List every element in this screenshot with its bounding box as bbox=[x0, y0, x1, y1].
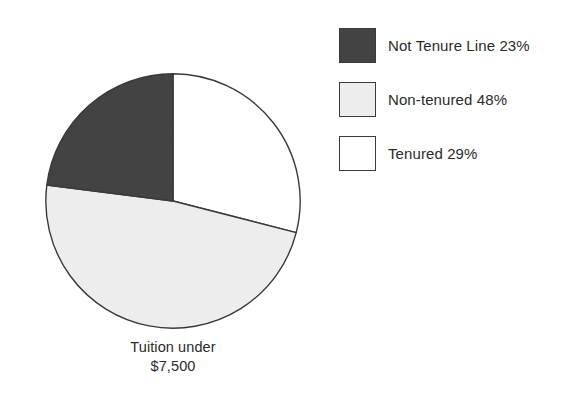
legend-item-not-tenure-line: Not Tenure Line 23% bbox=[339, 18, 577, 72]
pie-svg bbox=[44, 72, 302, 330]
chart-legend: Not Tenure Line 23% Non-tenured 48% Tenu… bbox=[339, 18, 577, 180]
legend-swatch-tenured bbox=[339, 136, 376, 171]
pie-chart-figure: Tuition under $7,500 Not Tenure Line 23%… bbox=[0, 0, 584, 397]
legend-label-tenured: Tenured 29% bbox=[388, 145, 478, 162]
legend-label-non-tenured: Non-tenured 48% bbox=[388, 91, 507, 108]
legend-item-non-tenured: Non-tenured 48% bbox=[339, 72, 577, 126]
legend-label-not-tenure-line: Not Tenure Line 23% bbox=[388, 37, 530, 54]
caption-line-1: Tuition under bbox=[44, 338, 302, 357]
pie-slice-group bbox=[46, 74, 300, 328]
legend-swatch-non-tenured bbox=[339, 82, 376, 117]
legend-swatch-not-tenure-line bbox=[339, 28, 376, 63]
pie-chart-caption: Tuition under $7,500 bbox=[44, 338, 302, 376]
pie-slice-not-tenure-line bbox=[47, 74, 173, 201]
pie-chart-plot-area bbox=[44, 72, 302, 330]
caption-line-2: $7,500 bbox=[44, 357, 302, 376]
legend-item-tenured: Tenured 29% bbox=[339, 126, 577, 180]
